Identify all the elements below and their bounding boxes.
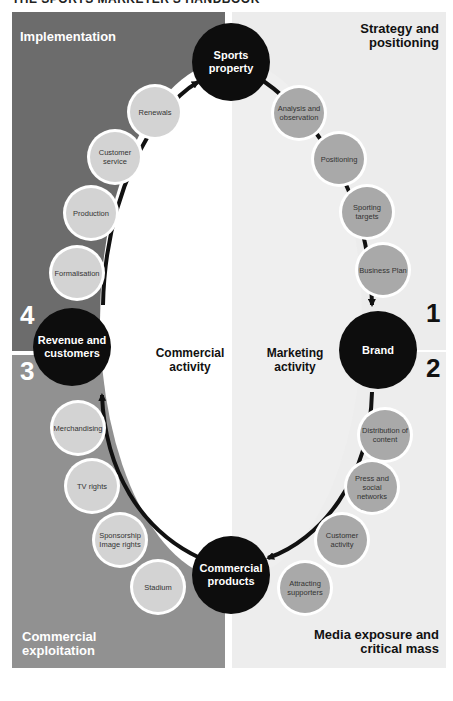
label-commercial-activity: Commercial activity [150,346,230,374]
step-customer-service: Customer service [90,132,140,182]
step-sporting-targets: Sporting targets [342,187,392,237]
hub-revenue-customers: Revenue and customers [33,308,111,386]
step-attracting-supporters: Attracting supporters [280,563,330,613]
step-business-plan: Business Plan [358,245,408,295]
step-production: Production [66,188,116,238]
step-customer-activity: Customer activity [317,515,367,565]
hub-sports-property: Sports property [192,23,270,101]
step-press-social: Press and social networks [347,462,397,512]
step-renewals: Renewals [130,87,180,137]
step-formalisation: Formalisation [52,248,102,298]
step-analysis-observation: Analysis and observation [274,88,324,138]
step-merchandising: Merchandising [53,403,103,453]
step-tv-rights: TV rights [67,461,117,511]
step-positioning: Positioning [314,134,364,184]
step-sponsorship-image-rights: Sponsorship Image rights [95,515,145,565]
hub-commercial-products: Commercial products [192,536,270,614]
hub-brand: Brand [339,311,417,389]
label-marketing-activity: Marketing activity [255,346,335,374]
step-distribution-content: Distribution of content [360,410,410,460]
step-stadium: Stadium [133,562,183,612]
